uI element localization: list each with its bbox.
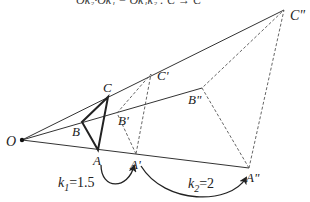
label-b1: B' — [118, 113, 129, 128]
label-a: A — [92, 153, 101, 168]
label-c1: C' — [157, 68, 169, 83]
svg-text:k1=1.5: k1=1.5 — [58, 175, 95, 193]
center-point-o — [20, 138, 24, 142]
triangle-a2b2c2 — [202, 10, 284, 168]
svg-text:k2=2: k2=2 — [188, 176, 214, 194]
k1-label: k1=1.5 — [58, 175, 95, 193]
homothety-diagram: Ok₂·Ok₁ = Ok₁k₂ : C → C O A B C A' — [0, 0, 310, 202]
label-b2: B" — [188, 92, 202, 107]
rays-from-center — [22, 10, 284, 168]
triangle-abc — [82, 97, 108, 150]
label-b: B — [72, 124, 80, 139]
diagram-canvas: O A B C A' B' C' A" B" C" k1=1.5 k2=2 — [0, 0, 310, 202]
k2-label: k2=2 — [188, 176, 214, 194]
label-o: O — [6, 134, 16, 149]
clipped-formula-caption: Ok₂·Ok₁ = Ok₁k₂ : C → C — [76, 0, 276, 5]
label-c2: C" — [290, 8, 305, 23]
ray-oc — [22, 10, 284, 140]
label-a2: A" — [245, 170, 260, 185]
label-a1: A' — [129, 157, 141, 172]
label-c: C — [103, 80, 112, 95]
